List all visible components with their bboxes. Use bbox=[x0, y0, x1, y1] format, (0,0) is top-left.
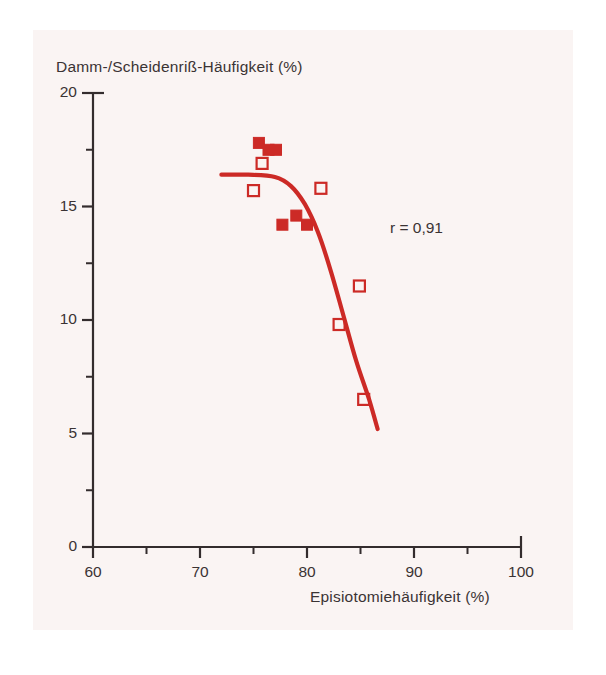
y-tick-label: 10 bbox=[43, 310, 77, 328]
y-tick-label: 5 bbox=[43, 424, 77, 442]
y-tick-label: 20 bbox=[43, 83, 77, 101]
x-axis-title: Episiotomiehäufigkeit (%) bbox=[310, 588, 490, 606]
filled-square-marker bbox=[271, 144, 282, 155]
open-square-marker bbox=[354, 281, 365, 292]
filled-square-marker bbox=[291, 210, 302, 221]
x-tick-label: 90 bbox=[394, 563, 434, 581]
correlation-annotation: r = 0,91 bbox=[390, 219, 443, 237]
figure-container: Damm-/Scheidenriß-Häufigkeit (%) Episiot… bbox=[0, 0, 606, 675]
y-tick-label: 0 bbox=[43, 537, 77, 555]
open-square-marker bbox=[257, 158, 268, 169]
axes bbox=[82, 93, 521, 558]
open-square-marker bbox=[315, 183, 326, 194]
x-tick-label: 60 bbox=[73, 563, 113, 581]
filled-square-marker bbox=[277, 219, 288, 230]
x-tick-label: 100 bbox=[501, 563, 541, 581]
y-axis-title: Damm-/Scheidenriß-Häufigkeit (%) bbox=[56, 58, 303, 76]
open-square-marker bbox=[248, 185, 259, 196]
filled-square-marker bbox=[302, 219, 313, 230]
x-tick-label: 70 bbox=[180, 563, 220, 581]
x-tick-label: 80 bbox=[287, 563, 327, 581]
y-tick-label: 15 bbox=[43, 197, 77, 215]
